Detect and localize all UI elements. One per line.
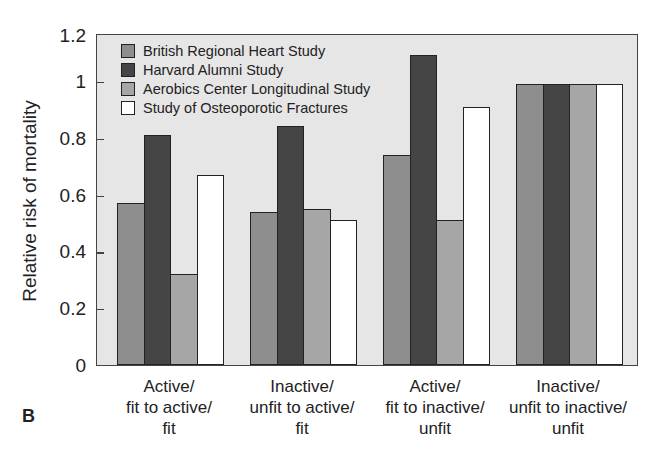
- y-tick-label: 0.2: [46, 299, 86, 319]
- bar: [170, 274, 198, 365]
- legend-item: British Regional Heart Study: [121, 41, 370, 60]
- bar: [144, 135, 172, 365]
- legend-label: Aerobics Center Longitudinal Study: [143, 81, 370, 97]
- bar: [197, 175, 225, 365]
- y-tick: [96, 309, 104, 310]
- y-tick: [96, 252, 104, 253]
- bar: [436, 220, 464, 365]
- bar: [383, 155, 411, 365]
- x-tick-label: Inactive/unfit to inactive/unfit: [493, 376, 643, 439]
- legend-label: Harvard Alumni Study: [143, 62, 283, 78]
- legend-item: Study of Osteoporotic Fractures: [121, 98, 370, 117]
- bar: [250, 212, 278, 365]
- bar: [569, 84, 597, 365]
- y-tick: [96, 196, 104, 197]
- bar: [277, 126, 305, 365]
- y-tick: [96, 139, 104, 140]
- bar: [410, 55, 438, 365]
- legend-item: Harvard Alumni Study: [121, 60, 370, 79]
- legend-label: British Regional Heart Study: [143, 43, 325, 59]
- y-tick-label: 0: [46, 356, 86, 376]
- y-tick-label: 0.6: [46, 186, 86, 206]
- y-tick-label: 0.8: [46, 129, 86, 149]
- legend-item: Aerobics Center Longitudinal Study: [121, 79, 370, 98]
- legend-swatch: [121, 82, 135, 96]
- bar: [516, 84, 544, 365]
- panel-label: B: [22, 406, 35, 427]
- x-tick-label: Active/fit to inactive/unfit: [360, 376, 510, 439]
- y-tick: [96, 82, 104, 83]
- x-tick-label: Active/fit to active/fit: [94, 376, 244, 439]
- bar: [543, 84, 571, 365]
- legend-swatch: [121, 101, 135, 115]
- y-tick-label: 0.4: [46, 242, 86, 262]
- bar: [596, 84, 624, 365]
- y-tick-label: 1: [46, 72, 86, 92]
- legend: British Regional Heart StudyHarvard Alum…: [121, 41, 370, 117]
- legend-label: Study of Osteoporotic Fractures: [143, 100, 348, 116]
- bar: [463, 107, 491, 365]
- bar: [330, 220, 358, 365]
- bar: [117, 203, 145, 365]
- y-axis-title: Relative risk of mortality: [19, 96, 41, 306]
- legend-swatch: [121, 44, 135, 58]
- y-tick-label: 1.2: [46, 26, 86, 46]
- x-tick-label: Inactive/unfit to active/fit: [227, 376, 377, 439]
- legend-swatch: [121, 63, 135, 77]
- bar: [303, 209, 331, 365]
